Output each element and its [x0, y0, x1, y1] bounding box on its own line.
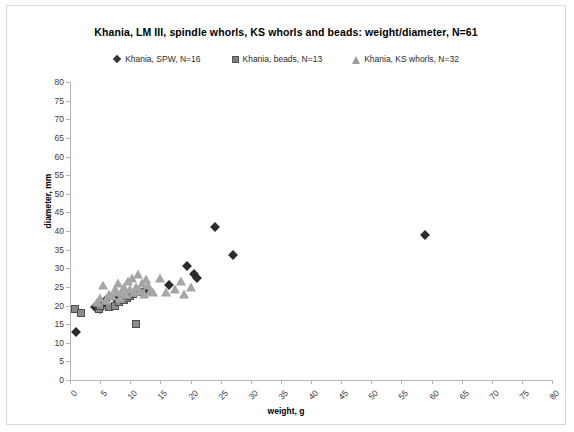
y-tick-label: 65 [55, 133, 64, 143]
x-tick-label: 80 [547, 388, 561, 402]
x-tick-mark [492, 380, 493, 384]
x-tick-mark [432, 380, 433, 384]
y-tick-label: 35 [55, 245, 64, 255]
data-point-triangle [98, 281, 108, 290]
x-tick-label: 45 [336, 388, 350, 402]
x-tick-mark [160, 380, 161, 384]
y-tick-mark [66, 306, 70, 307]
y-tick-mark [66, 101, 70, 102]
y-tick-mark [66, 287, 70, 288]
x-tick-label: 40 [306, 388, 320, 402]
x-tick-mark [371, 380, 372, 384]
data-point-diamond [421, 230, 431, 240]
x-tick-mark [130, 380, 131, 384]
x-axis-title: weight, g [7, 406, 565, 416]
chart-title: Khania, LM III, spindle whorls, KS whorl… [7, 26, 565, 38]
data-point-diamond [210, 222, 220, 232]
data-point-diamond [228, 250, 238, 260]
triangle-marker-icon [352, 55, 361, 64]
x-tick-label: 15 [156, 388, 170, 402]
data-point-diamond [71, 327, 81, 337]
y-tick-mark [66, 343, 70, 344]
data-point-triangle [186, 282, 196, 291]
x-tick-mark [100, 380, 101, 384]
y-tick-label: 80 [55, 77, 64, 87]
x-tick-mark [552, 380, 553, 384]
y-tick-label: 15 [55, 319, 64, 329]
y-tick-mark [66, 231, 70, 232]
y-tick-label: 25 [55, 282, 64, 292]
legend-item-spw[interactable]: Khania, SPW, N=16 [113, 54, 200, 64]
y-tick-label: 45 [55, 207, 64, 217]
plot-area: 0510152025303540455055606570758005101520… [70, 82, 552, 380]
diamond-marker-icon [113, 55, 122, 64]
legend-item-beads[interactable]: Khania, beads, N=13 [231, 54, 323, 64]
x-tick-mark [341, 380, 342, 384]
y-tick-mark [66, 194, 70, 195]
x-tick-mark [522, 380, 523, 384]
data-point-square [77, 309, 85, 317]
y-tick-label: 5 [59, 356, 64, 366]
y-tick-mark [66, 212, 70, 213]
x-tick-label: 50 [367, 388, 381, 402]
y-tick-mark [66, 268, 70, 269]
legend-label-ks-whorls: Khania, KS whorls, N=32 [364, 54, 459, 64]
chart-frame: Khania, LM III, spindle whorls, KS whorl… [6, 5, 566, 425]
x-tick-label: 65 [457, 388, 471, 402]
y-tick-label: 10 [55, 338, 64, 348]
x-tick-mark [401, 380, 402, 384]
data-point-diamond [183, 261, 193, 271]
y-tick-label: 60 [55, 152, 64, 162]
y-tick-label: 75 [55, 96, 64, 106]
x-tick-label: 5 [99, 388, 109, 398]
legend-label-beads: Khania, beads, N=13 [243, 54, 323, 64]
y-axis-title: diameter, mm [43, 174, 53, 229]
data-point-triangle [155, 273, 165, 282]
x-tick-label: 75 [517, 388, 531, 402]
y-tick-label: 70 [55, 114, 64, 124]
y-tick-mark [66, 82, 70, 83]
y-tick-mark [66, 157, 70, 158]
y-tick-label: 20 [55, 301, 64, 311]
x-tick-mark [251, 380, 252, 384]
chart-legend: Khania, SPW, N=16 Khania, beads, N=13 Kh… [7, 54, 565, 64]
y-tick-mark [66, 119, 70, 120]
x-tick-label: 35 [276, 388, 290, 402]
data-point-square [132, 320, 140, 328]
x-tick-label: 30 [246, 388, 260, 402]
y-tick-mark [66, 175, 70, 176]
y-tick-label: 55 [55, 170, 64, 180]
y-tick-mark [66, 138, 70, 139]
x-tick-label: 55 [397, 388, 411, 402]
x-tick-mark [311, 380, 312, 384]
x-tick-label: 20 [186, 388, 200, 402]
legend-item-ks-whorls[interactable]: Khania, KS whorls, N=32 [352, 54, 459, 64]
x-tick-mark [70, 380, 71, 384]
y-tick-label: 40 [55, 226, 64, 236]
y-tick-mark [66, 361, 70, 362]
y-tick-label: 0 [59, 375, 64, 385]
data-point-triangle [148, 288, 158, 297]
y-tick-label: 50 [55, 189, 64, 199]
x-tick-label: 70 [487, 388, 501, 402]
x-tick-mark [221, 380, 222, 384]
y-tick-mark [66, 250, 70, 251]
legend-label-spw: Khania, SPW, N=16 [125, 54, 200, 64]
x-tick-label: 60 [427, 388, 441, 402]
y-tick-label: 30 [55, 263, 64, 273]
x-tick-label: 10 [126, 388, 140, 402]
x-tick-label: 0 [69, 388, 79, 398]
x-tick-label: 25 [216, 388, 230, 402]
x-tick-mark [462, 380, 463, 384]
y-tick-mark [66, 324, 70, 325]
chart-screenshot: Khania, LM III, spindle whorls, KS whorl… [0, 0, 574, 432]
square-marker-icon [231, 55, 240, 64]
x-tick-mark [281, 380, 282, 384]
x-tick-mark [191, 380, 192, 384]
